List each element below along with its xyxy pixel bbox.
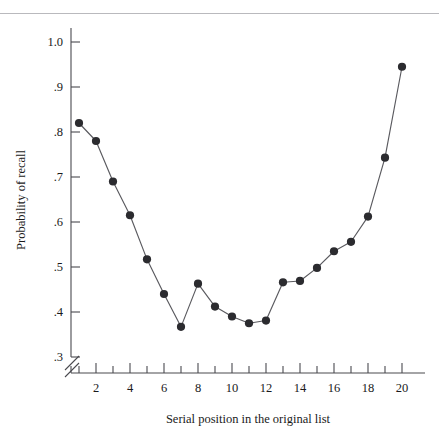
data-point: [364, 213, 372, 221]
data-point: [347, 238, 355, 246]
y-tick-label-0.7: .7: [54, 170, 63, 184]
data-point: [160, 290, 168, 298]
y-axis-title: Probability of recall: [14, 149, 28, 249]
data-point: [245, 319, 253, 327]
data-point: [194, 280, 202, 288]
data-point: [143, 255, 151, 263]
data-point: [109, 177, 117, 185]
y-tick-label-0.3: .3: [54, 350, 63, 364]
x-axis-title: Serial position in the original list: [166, 412, 331, 426]
data-series-line: [79, 67, 402, 327]
x-tick-label-10: 10: [226, 381, 239, 395]
data-point: [126, 211, 134, 219]
data-point: [398, 63, 406, 71]
y-tick-label-1.0: 1.0: [47, 35, 63, 49]
data-point: [228, 312, 236, 320]
axis-break-slash-upper: [65, 356, 79, 370]
data-point: [381, 154, 389, 162]
data-point: [92, 137, 100, 145]
data-point: [177, 323, 185, 331]
data-point: [75, 119, 83, 127]
data-point: [313, 264, 321, 272]
x-tick-label-6: 6: [161, 381, 167, 395]
x-tick-group: [79, 363, 402, 373]
data-point: [296, 277, 304, 285]
y-tick-label-0.4: .4: [54, 305, 64, 319]
y-tick-label-0.9: .9: [54, 80, 63, 94]
x-tick-label-18: 18: [362, 381, 375, 395]
data-point: [330, 247, 338, 255]
serial-position-curve-figure: 1.0 .9 .8 .7 .6 .5 .4 .3: [0, 0, 439, 444]
y-tick-label-0.6: .6: [54, 215, 63, 229]
x-tick-label-2: 2: [93, 381, 99, 395]
y-tick-label-0.8: .8: [54, 125, 63, 139]
x-tick-label-4: 4: [127, 381, 134, 395]
data-series-markers: [75, 63, 406, 331]
data-point: [262, 316, 270, 324]
axis-break-slash-lower: [65, 363, 79, 377]
x-tick-label-20: 20: [396, 381, 409, 395]
x-tick-label-14: 14: [294, 381, 307, 395]
x-tick-label-12: 12: [260, 381, 273, 395]
x-tick-label-8: 8: [195, 381, 201, 395]
y-tick-label-0.5: .5: [54, 260, 63, 274]
chart-plot-area: 1.0 .9 .8 .7 .6 .5 .4 .3: [0, 0, 439, 444]
data-point: [279, 278, 287, 286]
x-tick-label-16: 16: [328, 381, 341, 395]
data-point: [211, 303, 219, 311]
